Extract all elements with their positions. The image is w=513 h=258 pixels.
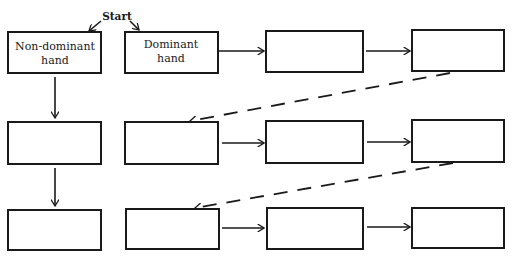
box-r1c1-line1: Non-dominant — [15, 40, 95, 53]
flow-diagram: Start Non-dominant hand Dominant hand — [0, 0, 513, 258]
box-r3c4 — [412, 208, 504, 248]
box-r1c1-line2: hand — [41, 54, 69, 67]
start-arrow-left — [89, 21, 101, 31]
box-r3c3 — [267, 208, 363, 249]
box-r2c3 — [266, 121, 363, 163]
box-r1c2-line2: hand — [157, 52, 185, 65]
box-r3c2 — [126, 209, 219, 249]
box-r1c2-line1: Dominant — [144, 38, 199, 51]
dashed-arrow-r1c4-to-r2c2 — [190, 73, 450, 121]
start-arrow-right — [130, 21, 139, 30]
box-r2c4 — [412, 120, 504, 162]
box-r3c1 — [8, 210, 101, 250]
box-r1c3 — [266, 31, 363, 72]
dashed-arrow-r2c4-to-r3c2 — [195, 163, 453, 208]
box-r1c4 — [412, 30, 504, 71]
start-label: Start — [102, 10, 132, 22]
box-r2c2 — [125, 122, 218, 164]
box-r2c1 — [8, 122, 101, 164]
